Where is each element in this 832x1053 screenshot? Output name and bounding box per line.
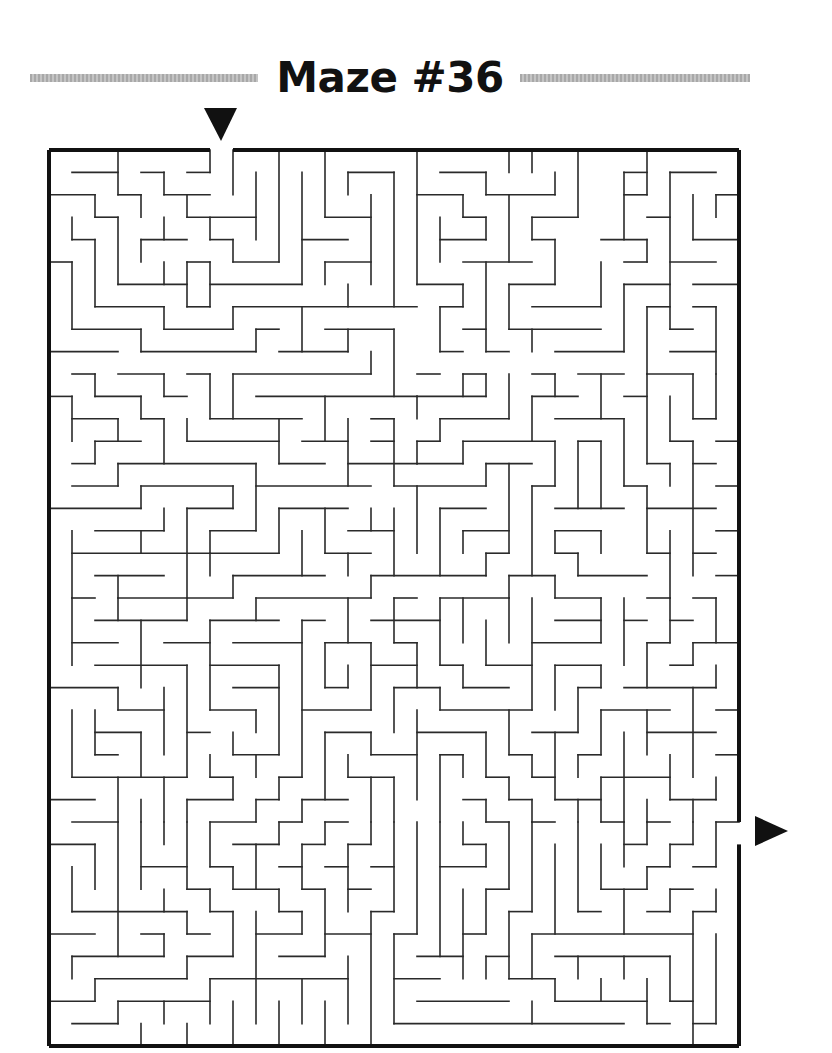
- entrance-arrow-icon: [204, 108, 237, 141]
- exit-arrow-icon: [755, 816, 788, 846]
- maze[interactable]: [0, 0, 832, 1053]
- maze-walls: [49, 150, 739, 1046]
